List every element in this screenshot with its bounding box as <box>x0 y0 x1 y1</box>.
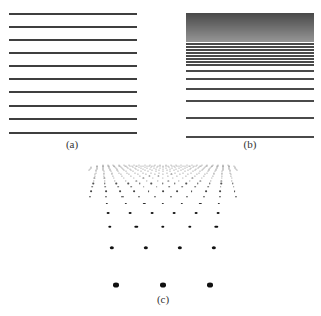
texture-dot <box>176 190 178 191</box>
horizontal-line <box>186 55 314 57</box>
texture-dot <box>233 186 235 187</box>
texture-dot <box>214 172 215 173</box>
texture-dot <box>183 166 184 167</box>
texture-dot <box>217 165 218 166</box>
texture-dot <box>103 172 104 173</box>
texture-dot <box>147 168 148 169</box>
texture-dot <box>104 180 105 181</box>
texture-dot <box>106 203 108 205</box>
texture-dot <box>231 180 232 181</box>
texture-dot <box>109 167 110 168</box>
texture-dot <box>169 169 170 170</box>
texture-dot <box>107 212 110 214</box>
texture-dot <box>185 176 186 177</box>
texture-dot <box>215 170 216 171</box>
texture-dot <box>235 196 237 198</box>
texture-dot <box>92 186 94 187</box>
texture-dot <box>134 165 135 166</box>
texture-dot <box>230 174 231 175</box>
texture-dot <box>203 168 204 169</box>
texture-dot <box>92 183 93 184</box>
texture-dot <box>199 203 201 205</box>
horizontal-line <box>186 46 314 48</box>
texture-dot <box>149 165 150 166</box>
texture-dot <box>200 180 201 181</box>
texture-dot <box>143 169 144 170</box>
texture-dot <box>90 168 91 169</box>
texture-dot <box>173 212 176 214</box>
texture-dot <box>103 169 104 170</box>
texture-dot <box>192 178 193 179</box>
texture-dot <box>229 171 230 172</box>
horizontal-line <box>9 13 137 15</box>
texture-dot <box>157 180 158 181</box>
texture-dot <box>155 171 156 172</box>
texture-dot <box>122 176 123 177</box>
texture-dot <box>133 178 134 179</box>
texture-dot <box>123 169 124 170</box>
texture-dot <box>142 166 143 167</box>
texture-dot <box>157 167 158 168</box>
texture-dot <box>123 165 124 166</box>
texture-dot <box>137 174 138 175</box>
panel-b-label: (b) <box>244 138 257 150</box>
texture-dot <box>109 168 110 169</box>
texture-dot <box>197 168 198 169</box>
texture-dot <box>191 168 192 169</box>
texture-dot <box>103 168 104 169</box>
texture-dot <box>154 196 156 198</box>
texture-dot <box>97 165 98 166</box>
texture-dot <box>202 196 204 198</box>
horizontal-line <box>9 132 137 134</box>
texture-dot <box>140 168 141 169</box>
texture-dot <box>139 165 140 166</box>
texture-dot <box>167 176 168 177</box>
texture-dot <box>118 171 119 172</box>
texture-dot <box>205 190 207 191</box>
horizontal-line <box>9 118 137 120</box>
texture-dot <box>89 170 90 171</box>
texture-dot <box>127 172 128 173</box>
texture-dot <box>223 166 224 167</box>
texture-dot <box>89 169 90 170</box>
texture-dot <box>160 283 166 288</box>
horizontal-line <box>186 88 314 90</box>
texture-dot <box>170 165 171 166</box>
texture-dot <box>152 165 153 166</box>
texture-dot <box>168 167 169 168</box>
texture-dot <box>140 176 141 177</box>
texture-dot <box>171 166 172 167</box>
texture-dot <box>196 169 197 170</box>
texture-dot <box>105 190 107 191</box>
texture-dot <box>222 169 223 170</box>
texture-dot <box>161 225 164 228</box>
texture-dot <box>207 186 209 187</box>
texture-dot <box>222 172 223 173</box>
texture-dot <box>135 225 138 228</box>
texture-dot <box>204 167 205 168</box>
texture-dot <box>216 167 217 168</box>
horizontal-line <box>186 136 314 138</box>
texture-dot <box>228 166 229 167</box>
texture-dot <box>178 246 182 249</box>
texture-dot <box>174 167 175 168</box>
texture-dot <box>94 176 95 177</box>
texture-dot <box>217 212 220 214</box>
texture-dot <box>149 176 150 177</box>
texture-dot <box>208 170 209 171</box>
texture-dot <box>221 178 222 179</box>
texture-dot <box>191 190 193 191</box>
texture-dot <box>210 180 211 181</box>
texture-dot <box>172 168 173 169</box>
texture-dot <box>125 166 126 167</box>
texture-dot <box>187 170 188 171</box>
texture-dot <box>127 167 128 168</box>
texture-dot <box>209 183 210 184</box>
texture-dot <box>223 165 224 166</box>
horizontal-line <box>186 64 314 66</box>
texture-dot <box>91 167 92 168</box>
texture-dot <box>115 168 116 169</box>
texture-dot <box>118 165 119 166</box>
texture-dot <box>191 165 192 166</box>
texture-dot <box>154 174 155 175</box>
